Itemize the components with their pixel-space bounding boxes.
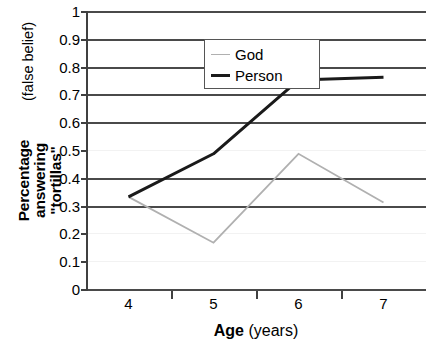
y-tick-label: 0.8 — [38, 60, 80, 75]
legend-label-person: Person — [235, 68, 283, 84]
x-tick-label: 4 — [109, 296, 149, 312]
y-tick-label: 0.9 — [38, 32, 80, 47]
x-axis-label-rest: (years) — [244, 322, 298, 339]
chart-figure: Percentage answering "tortillas" (false … — [0, 0, 442, 352]
x-tick-label: 7 — [364, 296, 404, 312]
y-tick-label: 1 — [38, 4, 80, 19]
legend-label-god: God — [235, 47, 263, 63]
x-axis-tick-labels: 4567 — [86, 296, 426, 316]
y-axis-tick-labels: 00.10.20.30.40.50.60.70.80.91 — [36, 0, 80, 352]
y-axis-label-sub: (false belief) — [18, 22, 36, 101]
x-tick-label: 6 — [279, 296, 319, 312]
y-tick-label: 0.1 — [38, 254, 80, 269]
legend-swatch-person-icon — [211, 74, 230, 77]
legend-item-god: God — [211, 44, 319, 65]
y-tick-label: 0.2 — [38, 226, 80, 241]
x-axis-label-bold: Age — [214, 322, 244, 339]
x-axis-label: Age (years) — [86, 322, 426, 340]
legend-item-person: Person — [211, 65, 319, 86]
series-line-god — [129, 154, 384, 243]
x-tick-label: 5 — [194, 296, 234, 312]
y-tick-label: 0.4 — [38, 171, 80, 186]
chart-legend: God Person — [204, 39, 320, 89]
series-line-person — [129, 77, 384, 197]
legend-swatch-god-icon — [211, 54, 230, 55]
y-tick-label: 0.6 — [38, 115, 80, 130]
y-tick-label: 0.7 — [38, 87, 80, 102]
y-tick-label: 0.5 — [38, 143, 80, 158]
y-tick-label: 0 — [38, 282, 80, 297]
y-tick-label: 0.3 — [38, 199, 80, 214]
plot-area: God Person — [86, 12, 426, 290]
